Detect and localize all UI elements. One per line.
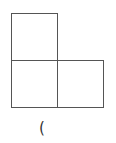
- square-bottom-left: [11, 60, 58, 108]
- square-bottom-right: [57, 60, 104, 108]
- square-top-left: [11, 13, 58, 61]
- figure-caption: (: [39, 121, 45, 136]
